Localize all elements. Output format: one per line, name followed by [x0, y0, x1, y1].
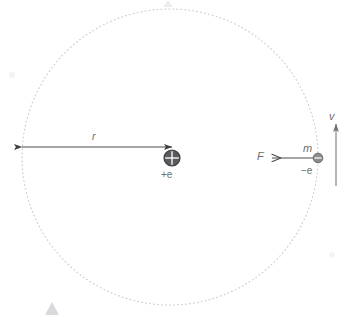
electron-mass-label: m — [303, 143, 312, 154]
diagram-svg — [0, 0, 345, 323]
velocity-label: v — [329, 111, 335, 122]
nucleus-charge-label: +e — [161, 170, 172, 180]
physics-diagram-canvas: r F v m +e −e — [0, 0, 345, 323]
nucleus-glyph — [164, 150, 180, 166]
electron-glyph — [313, 153, 323, 163]
radius-label: r — [92, 131, 96, 142]
electron-charge-label: −e — [301, 166, 312, 176]
force-label: F — [257, 151, 264, 162]
